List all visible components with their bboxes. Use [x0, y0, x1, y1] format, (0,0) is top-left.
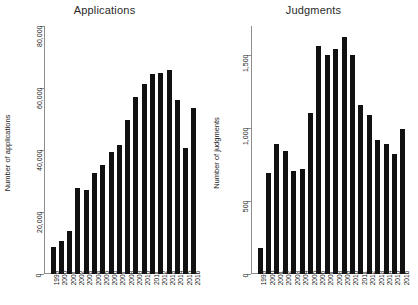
- x-axis-tick-label: 2016: [194, 271, 201, 286]
- bar: [384, 144, 389, 274]
- plot-area-judgments: 05001,0001,500 1999200020012002200320042…: [251, 26, 409, 274]
- bar-column: [82, 26, 90, 274]
- x-axis-label-column: 2013: [373, 275, 381, 305]
- bar-column: [74, 26, 82, 274]
- x-axis-label-column: 2009: [132, 275, 140, 305]
- bar-column: [399, 26, 407, 274]
- bar: [67, 231, 72, 274]
- x-axis-label-column: 2001: [273, 275, 281, 305]
- bar-column: [365, 26, 373, 274]
- bar-column: [357, 26, 365, 274]
- x-axis-label-column: 2002: [74, 275, 82, 305]
- y-axis-title-judgments: Number of judgments: [208, 0, 224, 305]
- bar: [308, 113, 313, 274]
- bar-column: [340, 26, 348, 274]
- page-title-judgments: Judgments: [209, 4, 418, 16]
- bar-column: [107, 26, 115, 274]
- x-axis-label-column: 2005: [99, 275, 107, 305]
- x-axis-label-column: 2006: [315, 275, 323, 305]
- bar-column: [332, 26, 340, 274]
- bar: [100, 165, 105, 274]
- x-axis-label-column: 2013: [165, 275, 173, 305]
- bar-column: [57, 26, 65, 274]
- bar: [142, 84, 147, 274]
- x-axis-label-column: 2014: [382, 275, 390, 305]
- x-axis-label-column: 2009: [340, 275, 348, 305]
- y-axis-title-label: Number of judgments: [212, 117, 221, 189]
- bar-column: [382, 26, 390, 274]
- bar-column: [148, 26, 156, 274]
- x-axis-label-column: 2012: [157, 275, 165, 305]
- bar-series-applications: [45, 26, 200, 274]
- x-axis-label-column: 2012: [365, 275, 373, 305]
- x-axis-label-column: 2008: [124, 275, 132, 305]
- x-axis-labels-judgments: 1999200020012002200320042005200620072008…: [252, 275, 409, 305]
- bar: [183, 148, 188, 274]
- x-axis-tick-label: 2016: [403, 271, 410, 286]
- x-axis-label-column: 2007: [115, 275, 123, 305]
- bar-column: [290, 26, 298, 274]
- x-axis-label-column: 2000: [264, 275, 272, 305]
- bar: [316, 46, 321, 274]
- x-axis-label-column: 2010: [140, 275, 148, 305]
- bar-column: [49, 26, 57, 274]
- x-axis-labels-applications: 1999200020012002200320042005200620072008…: [45, 275, 200, 305]
- x-axis-label-column: 2005: [306, 275, 314, 305]
- x-axis-label-column: 1999: [256, 275, 264, 305]
- bar-column: [66, 26, 74, 274]
- bar: [283, 151, 288, 274]
- bar-column: [323, 26, 331, 274]
- bar: [158, 73, 163, 275]
- panel-applications: Applications Number of applications 020,…: [0, 0, 209, 305]
- bar-column: [315, 26, 323, 274]
- bar: [150, 74, 155, 274]
- x-axis-label-column: 2007: [323, 275, 331, 305]
- x-axis-label-column: 2010: [348, 275, 356, 305]
- bar-column: [281, 26, 289, 274]
- bar-column: [124, 26, 132, 274]
- bar-column: [140, 26, 148, 274]
- x-axis-label-column: 2016: [190, 275, 198, 305]
- x-axis-label-column: 2003: [290, 275, 298, 305]
- bar: [75, 188, 80, 274]
- bar: [400, 129, 405, 274]
- bar-column: [373, 26, 381, 274]
- bar: [392, 154, 397, 274]
- x-axis-label-column: 2011: [357, 275, 365, 305]
- bar: [358, 105, 363, 274]
- bar: [175, 100, 180, 274]
- bar: [109, 152, 114, 274]
- bar-column: [132, 26, 140, 274]
- bar: [367, 115, 372, 274]
- bar: [300, 169, 305, 274]
- bar: [333, 49, 338, 274]
- bar: [167, 70, 172, 274]
- x-axis-label-column: 2003: [82, 275, 90, 305]
- bar: [191, 108, 196, 274]
- x-axis-label-column: 2004: [298, 275, 306, 305]
- x-axis-label-column: 2014: [173, 275, 181, 305]
- panel-judgments: Judgments Number of judgments 05001,0001…: [209, 0, 418, 305]
- bar-column: [190, 26, 198, 274]
- bar-column: [99, 26, 107, 274]
- bar-column: [157, 26, 165, 274]
- x-axis-label-column: 2015: [182, 275, 190, 305]
- x-axis-label-column: 2004: [90, 275, 98, 305]
- x-axis-label-column: 2015: [390, 275, 398, 305]
- bar: [133, 97, 138, 274]
- bar-column: [256, 26, 264, 274]
- plot-area-applications: 020,00040,00060,00080,000 19992000200120…: [44, 26, 200, 274]
- bar-column: [264, 26, 272, 274]
- bar-column: [348, 26, 356, 274]
- y-axis-title-label: Number of applications: [3, 114, 12, 191]
- bar-column: [390, 26, 398, 274]
- bar: [325, 55, 330, 274]
- bar-column: [173, 26, 181, 274]
- x-axis-label-column: 1999: [49, 275, 57, 305]
- bar: [274, 144, 279, 274]
- bar: [84, 190, 89, 274]
- bar: [266, 173, 271, 274]
- x-axis-label-column: 2008: [332, 275, 340, 305]
- bar-column: [306, 26, 314, 274]
- bar-column: [165, 26, 173, 274]
